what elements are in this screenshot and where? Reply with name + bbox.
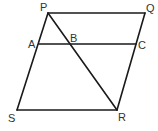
label-c: C	[138, 39, 146, 51]
label-r: R	[118, 111, 126, 123]
label-a: A	[28, 38, 36, 50]
label-b: B	[70, 32, 77, 44]
segment-qr	[117, 13, 145, 110]
label-p: P	[40, 1, 47, 13]
segment-pr	[48, 13, 117, 110]
label-q: Q	[146, 2, 155, 14]
segment-sp	[17, 13, 48, 110]
label-s: S	[8, 112, 15, 124]
parallelogram-diagram: P Q A B C S R	[0, 0, 158, 131]
